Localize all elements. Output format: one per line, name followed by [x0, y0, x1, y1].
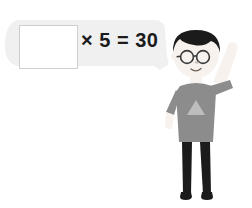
head	[171, 30, 220, 78]
legs	[182, 142, 211, 194]
cartoon-boy-figure	[150, 28, 252, 208]
shirt	[165, 80, 233, 142]
ear	[171, 52, 176, 59]
answer-input-box[interactable]	[19, 25, 78, 69]
shoes	[180, 192, 213, 200]
scene-canvas: × 5 = 30	[0, 0, 252, 208]
left-forearm	[165, 112, 174, 129]
equation-text: × 5 = 30	[81, 30, 158, 50]
